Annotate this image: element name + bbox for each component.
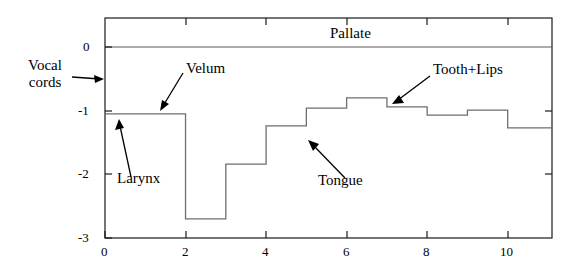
y-axis-ticks-right [545,111,552,174]
x-axis-ticks [105,231,508,238]
tooth-lips-arrow [392,76,430,104]
annotation-vocal-cords-line1: Vocal [14,57,76,74]
annotation-velum: Velum [186,60,225,77]
y-tick-label-minus1: -1 [78,104,89,119]
y-tick-label-0: 0 [83,40,90,55]
vocal-cords-arrow [72,75,104,83]
y-tick-label-minus3: -3 [78,231,89,246]
annotation-tongue: Tongue [318,172,363,189]
x-tick-label-10: 10 [500,245,513,260]
annotation-vocal-cords: Vocal cords [14,57,76,91]
x-axis-ticks-top [186,18,508,25]
larynx-arrow [115,119,131,177]
x-tick-label-6: 6 [343,245,350,260]
annotation-vocal-cords-line2: cords [14,74,76,91]
x-tick-label-2: 2 [182,245,189,260]
annotation-pallate: Pallate [330,25,371,42]
y-axis-ticks [105,47,112,238]
x-tick-label-8: 8 [423,245,430,260]
y-tick-label-minus2: -2 [78,167,89,182]
velum-arrow [160,73,183,111]
vocal-tract-step-curve [105,98,552,219]
plot-frame [105,18,552,238]
figure-container: 0 -1 -2 -3 0 2 4 6 8 10 Vocal cords Velu… [0,0,564,279]
annotation-larynx: Larynx [117,170,160,187]
x-tick-label-0: 0 [101,245,108,260]
annotation-tooth-lips: Tooth+Lips [433,61,503,78]
x-tick-label-4: 4 [262,245,269,260]
